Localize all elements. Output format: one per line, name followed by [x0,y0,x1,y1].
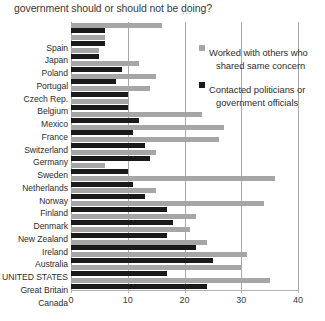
bar-contacted-politicians [71,54,99,59]
bar-group [71,188,298,201]
x-tick-mark [185,290,186,293]
category-label: New Zealand [0,235,68,244]
x-tick-mark [298,290,299,293]
bar-worked-with-others [71,252,247,257]
category-axis-labels: SpainJapanPolandPortugalCzech Rep.Belgiu… [0,42,68,310]
chart-title-ellipsis: ... [182,6,193,16]
legend-label: Contacted politicians orgovernment offic… [209,84,323,109]
bar-group [71,22,298,35]
bar-worked-with-others [71,163,105,168]
x-tick-label: 0 [59,295,83,305]
bar-group [71,201,298,214]
bar-worked-with-others [71,35,105,40]
legend-swatch-icon [199,45,205,51]
bar-contacted-politicians [71,284,207,289]
bar-contacted-politicians [71,105,128,110]
bar-worked-with-others [71,240,207,245]
bar-worked-with-others [71,265,241,270]
category-label: Portugal [0,82,68,91]
bar-contacted-politicians [71,271,167,276]
bar-group [71,162,298,175]
bar-worked-with-others [71,125,224,130]
bar-worked-with-others [71,61,139,66]
category-label: Sweden [0,171,68,180]
bar-group [71,124,298,137]
bar-contacted-politicians [71,143,145,148]
bar-contacted-politicians [71,118,139,123]
legend-label: Worked with others whoshared same concer… [209,47,323,72]
bar-worked-with-others [71,201,264,206]
bar-contacted-politicians [71,245,196,250]
bar-worked-with-others [71,23,162,28]
category-label: Germany [0,158,68,167]
bar-worked-with-others [71,214,196,219]
bar-group [71,175,298,188]
bar-group [71,277,298,290]
x-tick-mark [241,290,242,293]
category-label: Mexico [0,120,68,129]
bar-contacted-politicians [71,207,167,212]
category-label: Czech Rep. [0,95,68,104]
bar-contacted-politicians [71,67,122,72]
bar-contacted-politicians [71,182,133,187]
bar-contacted-politicians [71,79,116,84]
bar-group [71,213,298,226]
bar-contacted-politicians [71,130,133,135]
bar-group [71,137,298,150]
bar-group [71,150,298,163]
bar-contacted-politicians [71,169,128,174]
x-tick-label: 30 [229,295,253,305]
x-tick-label: 20 [173,295,197,305]
bar-contacted-politicians [71,156,150,161]
category-label: Denmark [0,222,68,231]
bar-worked-with-others [71,176,275,181]
category-label: Japan [0,56,68,65]
bar-worked-with-others [71,188,156,193]
bar-contacted-politicians [71,194,145,199]
chart-legend: Worked with others whoshared same concer… [199,42,323,115]
category-label: France [0,133,68,142]
bar-group [71,264,298,277]
bar-worked-with-others [71,48,99,53]
bar-chart: SpainJapanPolandPortugalCzech Rep.Belgiu… [0,20,325,321]
category-label: Belgium [0,107,68,116]
bar-worked-with-others [71,137,219,142]
bar-contacted-politicians [71,92,128,97]
bar-worked-with-others [71,99,128,104]
category-label: Spain [0,44,68,53]
category-label: Great Britain [0,286,68,295]
bar-worked-with-others [71,227,190,232]
x-tick-label: 10 [116,295,140,305]
category-label: Switzerland [0,146,68,155]
category-label: Poland [0,69,68,78]
bar-contacted-politicians [71,220,173,225]
bar-worked-with-others [71,86,150,91]
chart-title-block: do you think are things that the governm… [0,0,325,20]
bar-contacted-politicians [71,258,213,263]
bar-group [71,226,298,239]
bar-worked-with-others [71,278,270,283]
bar-contacted-politicians [71,41,105,46]
legend-swatch-icon [199,82,205,88]
bar-worked-with-others [71,150,156,155]
category-label: Australia [0,260,68,269]
bar-contacted-politicians [71,28,105,33]
bar-worked-with-others [71,74,156,79]
bar-group [71,239,298,252]
category-label: Finland [0,209,68,218]
x-tick-label: 40 [286,295,310,305]
x-tick-mark [128,290,129,293]
legend-item-contacted-politicians[interactable]: Contacted politicians orgovernment offic… [199,79,323,109]
category-label: Ireland [0,248,68,257]
category-label: Netherlands [0,184,68,193]
category-label: UNITED STATES [0,273,68,282]
bar-group [71,252,298,265]
category-label: Canada [0,299,68,308]
legend-item-worked-with-others[interactable]: Worked with others whoshared same concer… [199,42,323,72]
bar-worked-with-others [71,112,202,117]
category-label: Norway [0,197,68,206]
x-tick-mark [71,290,72,293]
x-axis: 010203040 [71,290,298,310]
bar-contacted-politicians [71,233,167,238]
